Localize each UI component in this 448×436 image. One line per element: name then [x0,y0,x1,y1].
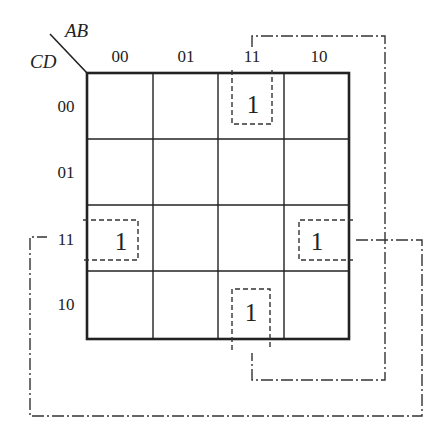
col-label-11: 11 [244,47,260,66]
cell-value-r11-c00: 1 [115,228,128,255]
group-box-r11-c10 [299,220,353,260]
row-label-01: 01 [58,163,75,182]
col-label-00: 00 [112,47,129,66]
cell-value-r10-c11: 1 [245,299,258,326]
cell-value-r00-c11: 1 [247,91,260,118]
column-vars-label: AB [63,20,89,41]
wrap-connector-row-11 [30,237,422,416]
row-label-00: 00 [58,97,75,116]
group-box-r11-c00 [83,220,138,260]
wrap-connectors [30,36,422,416]
row-label-10: 10 [58,295,75,314]
cell-value-r11-c10: 1 [311,228,324,255]
karnaugh-map: AB CD 00 01 11 10 00 01 11 10 1 1 1 1 [0,0,448,436]
col-label-01: 01 [178,47,195,66]
col-label-10: 10 [311,47,328,66]
row-vars-label: CD [30,51,57,72]
row-label-11: 11 [58,230,74,249]
kmap-grid [87,73,349,339]
